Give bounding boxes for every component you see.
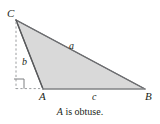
- geometry-figure: C A B a b c A is obtuse.: [0, 0, 160, 124]
- side-label-a: a: [69, 41, 74, 51]
- side-label-c: c: [92, 92, 96, 102]
- side-label-b: b: [22, 57, 27, 67]
- vertex-label-c: C: [7, 8, 14, 19]
- vertex-label-b: B: [145, 91, 152, 102]
- vertex-label-a: A: [39, 91, 46, 102]
- figure-caption: A is obtuse.: [0, 106, 160, 117]
- caption-text: is obtuse.: [63, 106, 103, 117]
